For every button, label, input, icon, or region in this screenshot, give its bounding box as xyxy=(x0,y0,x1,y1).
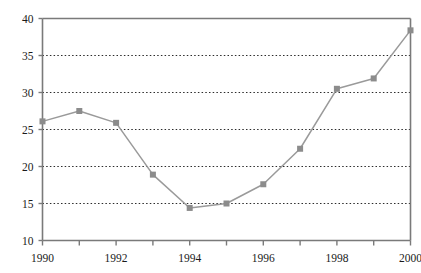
data-point-1990 xyxy=(40,118,46,124)
y-tick-label-10: 10 xyxy=(22,235,34,247)
x-tick-label-1996: 1996 xyxy=(252,252,275,264)
data-point-1993 xyxy=(150,172,156,178)
data-point-1992 xyxy=(113,120,119,126)
chart-background xyxy=(0,0,421,273)
y-tick-label-20: 20 xyxy=(22,161,34,173)
data-point-1997 xyxy=(297,146,303,152)
x-tick-label-1998: 1998 xyxy=(325,252,348,264)
data-point-1999 xyxy=(371,75,377,81)
data-point-1991 xyxy=(76,108,82,114)
chart-canvas: 10152025303540 199019921994199619982000 xyxy=(0,0,421,273)
data-point-1994 xyxy=(187,205,193,211)
line-chart: 10152025303540 199019921994199619982000 xyxy=(0,0,421,273)
data-point-1998 xyxy=(334,86,340,92)
data-point-2000 xyxy=(408,27,414,33)
y-tick-label-40: 40 xyxy=(22,13,34,25)
y-tick-label-25: 25 xyxy=(22,124,34,136)
x-tick-label-2000: 2000 xyxy=(399,252,421,264)
x-tick-label-1990: 1990 xyxy=(31,252,54,264)
data-point-1995 xyxy=(224,201,230,207)
x-tick-label-1994: 1994 xyxy=(178,252,201,264)
y-tick-label-30: 30 xyxy=(22,87,34,99)
y-tick-label-15: 15 xyxy=(22,198,34,210)
y-tick-label-35: 35 xyxy=(22,50,34,62)
data-point-1996 xyxy=(260,181,266,187)
x-tick-label-1992: 1992 xyxy=(105,252,128,264)
